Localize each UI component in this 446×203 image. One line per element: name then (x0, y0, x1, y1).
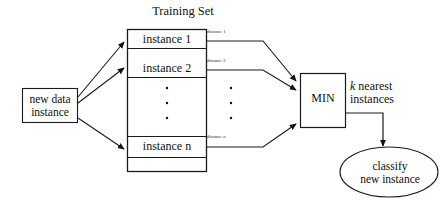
arrow-newdata-to-instance-2 (78, 68, 124, 103)
ellipsis-dot (166, 87, 168, 89)
edge-distance-1 (207, 41, 297, 81)
classify-ellipse (340, 147, 438, 197)
edge-min-to-classify (346, 113, 384, 146)
arrow-newdata-to-instance-n (78, 118, 124, 149)
ellipsis-dot (166, 102, 168, 104)
edge-distance-2 (207, 70, 297, 90)
distance-ellipsis-dot (230, 102, 232, 104)
distance-ellipsis-dot (230, 87, 232, 89)
diagram-canvas (0, 0, 446, 203)
ellipsis-dot (166, 117, 168, 119)
distance-ellipsis-dot (230, 117, 232, 119)
knn-flow-diagram: Training Set new data instance instance … (0, 0, 446, 203)
training-set-box (128, 30, 207, 172)
new-data-instance-box (23, 89, 78, 123)
min-box (301, 74, 346, 128)
edge-distance-n (207, 124, 297, 147)
arrow-newdata-to-instance-1 (78, 42, 124, 97)
